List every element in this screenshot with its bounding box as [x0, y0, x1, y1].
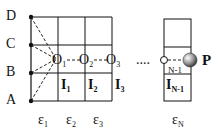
- column-label-e2: ε2: [66, 113, 76, 132]
- grid-diagram: D C B A O1 O2 O3 N-1 .... P I1 I2 I3 IN-…: [0, 0, 220, 135]
- cell-i3: I3: [115, 78, 124, 97]
- cell-i2: I2: [88, 78, 97, 97]
- point-label-c: C: [6, 37, 15, 51]
- column-label-e1: ε1: [38, 113, 48, 132]
- node-o1: O1: [52, 53, 66, 72]
- particle-label: P: [202, 53, 211, 67]
- node-n-1-label: N-1: [168, 63, 182, 77]
- cell-i1: I1: [61, 78, 70, 97]
- column-label-e3: ε3: [93, 113, 103, 132]
- point-label-b: B: [6, 65, 15, 79]
- cell-in-1: IN-1: [166, 78, 184, 97]
- node-o3: O3: [106, 53, 120, 72]
- node-o2: O2: [79, 53, 93, 72]
- point-label-a: A: [6, 93, 16, 107]
- ellipsis: ....: [136, 53, 150, 67]
- column-label-en: εN: [172, 113, 184, 132]
- point-label-d: D: [6, 9, 16, 23]
